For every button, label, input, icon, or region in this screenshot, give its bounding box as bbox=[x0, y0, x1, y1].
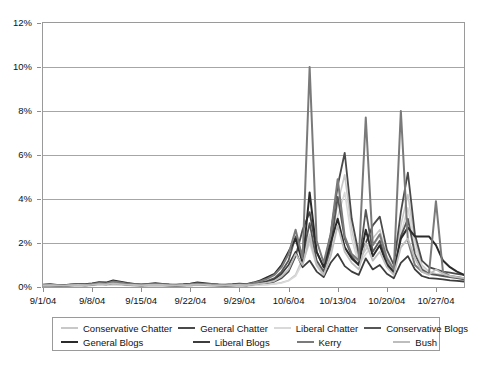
legend-row: General BlogsLiberal BlogsKerryBush bbox=[55, 335, 437, 349]
y-axis: 12%10%8%6%4%2%0% bbox=[0, 0, 38, 310]
x-tick-label: 10/27/04 bbox=[417, 295, 454, 306]
legend-item[interactable]: Conservative Blogs bbox=[358, 323, 468, 334]
series-layer bbox=[43, 23, 464, 287]
y-tick-label: 6% bbox=[18, 150, 32, 160]
legend-swatch-icon bbox=[193, 341, 210, 343]
legend-label: Conservative Blogs bbox=[386, 323, 468, 334]
x-tick-mark bbox=[436, 288, 437, 292]
legend-item[interactable]: General Chatter bbox=[172, 323, 268, 334]
y-tick-label: 10% bbox=[13, 62, 32, 72]
x-tick-label: 10/13/04 bbox=[319, 295, 356, 306]
legend-swatch-icon bbox=[393, 341, 410, 343]
legend-label: Liberal Chatter bbox=[296, 323, 358, 334]
x-tick-mark bbox=[239, 288, 240, 292]
x-tick-label: 9/22/04 bbox=[174, 295, 206, 306]
y-tick-label: 4% bbox=[18, 194, 32, 204]
series-line bbox=[43, 175, 464, 286]
legend-swatch-icon bbox=[274, 327, 291, 329]
y-tick-mark bbox=[37, 23, 41, 24]
legend-label: General Blogs bbox=[83, 337, 143, 348]
x-tick-mark bbox=[190, 288, 191, 292]
legend-item[interactable]: General Blogs bbox=[55, 337, 187, 348]
legend-item[interactable]: Kerry bbox=[291, 337, 388, 348]
x-tick-label: 9/29/04 bbox=[224, 295, 256, 306]
series-line bbox=[43, 153, 464, 286]
x-tick-label: 10/20/04 bbox=[368, 295, 405, 306]
legend-item[interactable]: Liberal Chatter bbox=[268, 323, 358, 334]
x-tick-label: 9/1/04 bbox=[30, 295, 56, 306]
x-tick-mark bbox=[338, 288, 339, 292]
x-tick-label: 9/15/04 bbox=[125, 295, 157, 306]
x-tick-label: 10/6/04 bbox=[273, 295, 305, 306]
x-tick-mark bbox=[141, 288, 142, 292]
x-tick-mark bbox=[289, 288, 290, 292]
legend-swatch-icon bbox=[364, 327, 381, 329]
x-tick-mark bbox=[387, 288, 388, 292]
plot-area bbox=[42, 22, 465, 288]
x-axis: 9/1/049/8/049/15/049/22/049/29/0410/6/04… bbox=[0, 291, 484, 309]
chart-legend: Conservative ChatterGeneral ChatterLiber… bbox=[52, 317, 440, 351]
y-tick-mark bbox=[37, 243, 41, 244]
legend-label: Liberal Blogs bbox=[215, 337, 270, 348]
y-tick-mark bbox=[37, 199, 41, 200]
x-tick-mark bbox=[92, 288, 93, 292]
line-chart: 12%10%8%6%4%2%0% 9/1/049/8/049/15/049/22… bbox=[0, 0, 484, 367]
legend-row: Conservative ChatterGeneral ChatterLiber… bbox=[55, 321, 437, 335]
legend-swatch-icon bbox=[178, 327, 195, 329]
y-tick-mark bbox=[37, 155, 41, 156]
y-tick-mark bbox=[37, 111, 41, 112]
x-tick-label: 9/8/04 bbox=[79, 295, 105, 306]
legend-item[interactable]: Conservative Chatter bbox=[55, 323, 172, 334]
series-line bbox=[43, 252, 464, 286]
series-line bbox=[43, 67, 464, 285]
y-tick-label: 8% bbox=[18, 106, 32, 116]
legend-swatch-icon bbox=[61, 327, 78, 329]
legend-item[interactable]: Liberal Blogs bbox=[187, 337, 291, 348]
legend-item[interactable]: Bush bbox=[387, 337, 437, 348]
legend-label: Bush bbox=[415, 337, 437, 348]
x-tick-mark bbox=[43, 288, 44, 292]
y-tick-label: 12% bbox=[13, 18, 32, 28]
legend-swatch-icon bbox=[297, 341, 314, 343]
legend-label: Conservative Chatter bbox=[83, 323, 172, 334]
legend-label: General Chatter bbox=[200, 323, 268, 334]
legend-swatch-icon bbox=[61, 341, 78, 343]
y-tick-mark bbox=[37, 287, 41, 288]
y-tick-mark bbox=[37, 67, 41, 68]
legend-label: Kerry bbox=[319, 337, 342, 348]
series-line bbox=[43, 192, 464, 285]
y-tick-label: 2% bbox=[18, 238, 32, 248]
